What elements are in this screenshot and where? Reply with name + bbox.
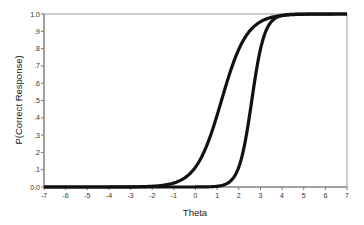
x-tick-label: -5 [84, 192, 90, 199]
y-tick-label: .8 [34, 45, 40, 52]
y-tick-label: .2 [34, 149, 40, 156]
x-tick-label: 4 [280, 192, 284, 199]
x-tick-label: 0 [194, 192, 198, 199]
x-axis-ticks: -7-6-5-4-3-2-101234567 [41, 187, 349, 199]
y-tick-label: .5 [34, 97, 40, 104]
x-tick-label: -4 [106, 192, 112, 199]
plot-frame [44, 14, 347, 187]
x-tick-label: -2 [149, 192, 155, 199]
y-tick-label: .7 [34, 62, 40, 69]
y-tick-label: 1.0 [30, 11, 40, 18]
x-tick-label: 6 [323, 192, 327, 199]
y-axis-label: P(Correct Response) [13, 55, 24, 144]
x-tick-label: -1 [171, 192, 177, 199]
x-tick-label: 3 [258, 192, 262, 199]
icc-chart: 0.0.1.2.3.4.5.6.7.8.91.0 -7-6-5-4-3-2-10… [0, 0, 364, 225]
x-tick-label: -7 [41, 192, 47, 199]
y-tick-label: 0.0 [30, 184, 40, 191]
x-tick-label: 7 [345, 192, 349, 199]
y-tick-label: .4 [34, 114, 40, 121]
x-tick-label: 2 [237, 192, 241, 199]
y-tick-label: .9 [34, 28, 40, 35]
y-tick-label: .6 [34, 80, 40, 87]
y-axis-ticks: 0.0.1.2.3.4.5.6.7.8.91.0 [30, 11, 44, 191]
x-tick-label: 5 [302, 192, 306, 199]
x-axis-label: Theta [183, 207, 208, 218]
x-tick-label: -3 [127, 192, 133, 199]
y-tick-label: .1 [34, 166, 40, 173]
x-tick-label: 1 [215, 192, 219, 199]
y-tick-label: .3 [34, 132, 40, 139]
x-tick-label: -6 [63, 192, 69, 199]
